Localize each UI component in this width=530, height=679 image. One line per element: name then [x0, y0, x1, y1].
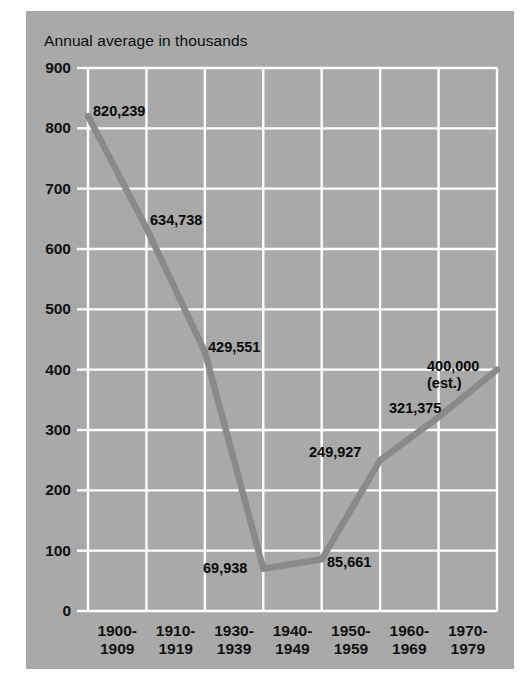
y-axis-tick-label: 400 — [23, 361, 71, 379]
gridlines — [88, 68, 497, 611]
label-634738: 634,738 — [150, 212, 202, 228]
plot-area — [0, 0, 530, 679]
y-axis-tick-label: 0 — [23, 602, 71, 620]
label-400000: 400,000 — [427, 358, 479, 374]
x-axis-tick-label-line1: 1970- — [432, 622, 504, 640]
chart-figure: Annual average in thousands 900800700600… — [0, 0, 530, 679]
y-axis-tick-label: 100 — [23, 542, 71, 560]
y-axis-tick-label: 900 — [23, 59, 71, 77]
label-249927: 249,927 — [309, 444, 361, 460]
x-axis-tick-label-line2: 1979 — [432, 640, 504, 658]
label-321375: 321,375 — [389, 400, 441, 416]
label-69938: 69,938 — [203, 560, 247, 576]
y-axis-tick-label: 300 — [23, 421, 71, 439]
label-85661: 85,661 — [327, 554, 371, 570]
y-axis-tick-label: 600 — [23, 240, 71, 258]
label-429551: 429,551 — [208, 339, 260, 355]
x-axis-tick-label: 1970-1979 — [432, 622, 504, 659]
y-axis-tick-label: 500 — [23, 300, 71, 318]
y-axis-tick-label: 800 — [23, 119, 71, 137]
data-line-series — [88, 116, 497, 569]
label-400000-est: (est.) — [427, 375, 462, 391]
y-axis-tick-label: 200 — [23, 481, 71, 499]
axis-ticks — [77, 68, 88, 611]
y-axis-tick-label: 700 — [23, 180, 71, 198]
label-820239: 820,239 — [93, 103, 145, 119]
